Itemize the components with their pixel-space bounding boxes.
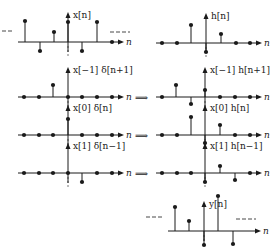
sample-dot [110,133,114,137]
axis-label-n: n [264,38,270,48]
stem-plot-x1: nx[1] δ[n−1] [18,141,132,187]
sample-dot [218,164,222,168]
sample-dot [110,95,114,99]
stem-plot-h: nh[n] [156,11,270,57]
sample-dot [189,102,193,106]
sample-dot [187,219,191,223]
sample-dot [233,133,237,137]
sample-dot [37,95,41,99]
sample-dot [175,171,179,175]
convolution-diagram: nx[n]nx[−1] δ[n+1]nx[0] δ[n]nx[1] δ[n−1]… [0,0,271,249]
sample-dot [80,180,84,184]
implies-arrow-icon: ⟹ [135,131,148,141]
axis-arrow-icon [204,13,209,19]
axis-arrow-icon [256,133,262,138]
axis-label-n: n [126,168,132,178]
axis-arrow-icon [66,143,71,149]
sample-dot [51,133,55,137]
sample-dot [80,95,84,99]
sample-dot [23,19,27,23]
sample-dot [248,171,252,175]
sample-dot [80,49,84,53]
sample-dot [203,180,207,184]
implies-arrow-icon: ⟹ [135,169,148,179]
sample-dot [110,40,114,44]
sample-dot [37,171,41,175]
sample-dot [174,83,178,87]
axis-arrow-icon [203,67,208,73]
sample-dot [175,41,179,45]
sample-dot [202,243,206,247]
signal-label: x[0] h[n] [210,103,249,113]
sample-dot [189,23,193,27]
sample-dot [22,171,26,175]
signal-label: h[n] [211,11,230,21]
axis-arrow-icon [118,133,124,138]
axis-label-n: n [126,130,132,140]
stem-plot-h1: nx[1] h[n−1] [156,141,270,187]
sample-dot [189,171,193,175]
signal-label: x[n] [73,10,91,20]
sample-dot [173,205,177,209]
sample-dot [160,41,164,45]
sample-dot [231,242,235,246]
axis-label-n: n [263,226,269,236]
sample-dot [160,95,164,99]
axis-arrow-icon [118,171,124,176]
axis-label-n: n [264,92,270,102]
stem-plot-x: nx[n] [0,10,132,56]
signal-label: x[0] δ[n] [73,103,112,113]
sample-dot [51,171,55,175]
sample-dot [219,32,223,36]
axis-arrow-icon [66,12,71,18]
sample-dot [233,178,237,182]
sample-dot [80,133,84,137]
sample-dot [110,171,114,175]
sample-dot [38,49,42,53]
sample-dot [218,123,222,127]
axis-arrow-icon [66,67,71,73]
axis-arrow-icon [118,40,124,45]
axis-arrow-icon [256,41,262,46]
sample-dot [22,95,26,99]
implies-arrow-icon: ⟹ [135,93,148,103]
axis-arrow-icon [202,201,207,207]
sample-dot [95,133,99,137]
axis-label-n: n [264,130,270,140]
sample-dot [51,83,55,87]
sample-dot [95,95,99,99]
sample-dot [189,115,193,119]
axis-arrow-icon [256,95,262,100]
sample-dot [95,20,99,24]
axis-label-n: n [126,92,132,102]
sample-dot [234,41,238,45]
sample-dot [52,30,56,34]
axis-arrow-icon [203,105,208,111]
signal-label: x[1] δ[n−1] [73,141,125,151]
axis-arrow-icon [256,171,262,176]
sample-dot [66,171,70,175]
axis-label-n: n [264,168,270,178]
sample-dot [95,171,99,175]
signal-label: x[−1] h[n+1] [210,65,270,75]
sample-dot [203,88,207,92]
sample-dot [248,41,252,45]
axis-label-n: n [126,37,132,47]
sample-dot [160,171,164,175]
sample-dot [66,20,70,24]
signal-label: x[−1] δ[n+1] [73,65,133,75]
axis-arrow-icon [118,95,124,100]
signal-label: x[1] h[n−1] [210,141,263,151]
sample-dot [248,95,252,99]
axis-arrow-icon [255,229,261,234]
sample-dot [216,194,220,198]
signal-label: y[n] [208,199,227,209]
sample-dot [160,133,164,137]
sample-dot [66,95,70,99]
sample-dot [204,50,208,54]
sample-dot [248,133,252,137]
axis-arrow-icon [66,105,71,111]
sample-dot [37,133,41,137]
sample-dot [22,133,26,137]
sample-dot [175,133,179,137]
